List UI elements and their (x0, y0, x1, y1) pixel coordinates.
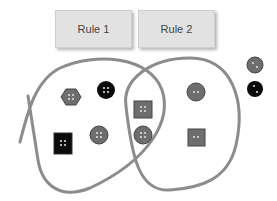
gray-circle-button-intersection (134, 126, 152, 144)
gray-square-button-intersection (134, 101, 152, 118)
gray-circle-button (90, 126, 108, 144)
gray-circle-outside-button (247, 57, 263, 73)
venn-diagram (0, 0, 277, 201)
hexagon-button (61, 89, 81, 105)
gray-square-two-hole-button (188, 129, 205, 146)
gray-circle-two-hole-button (187, 83, 205, 101)
black-circle-button (97, 81, 115, 99)
rule-2-loop (126, 58, 239, 190)
black-circle-outside-button (247, 81, 263, 97)
black-square-button (54, 133, 72, 154)
